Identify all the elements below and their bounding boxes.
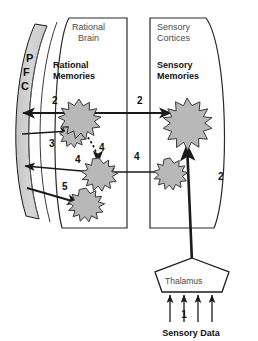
sensory-data-label: Sensory Data [162, 328, 221, 338]
step-label-1-sensory-data: 1 [181, 309, 187, 320]
sensory-memories-label-line1: Sensory [157, 60, 193, 70]
step-label-2-thalamus-to-sensory: 2 [218, 171, 224, 182]
diagram-canvas: P F C Rational Brain Rational Memories S… [0, 0, 258, 341]
step-label-4-mid-right: 4 [134, 151, 140, 162]
rational-memories-label-line2: Memories [53, 71, 95, 81]
step-label-3-small-to-pfc: 3 [49, 138, 55, 149]
step-label-5-pfc-to-star: 5 [62, 181, 68, 192]
step-label-2-rational-to-pfc: 2 [52, 95, 58, 106]
step-label-4-mid-left: 4 [75, 154, 81, 165]
rational-brain-title-line1: Rational [72, 22, 105, 32]
step-label-2-rational-to-sensory: 2 [137, 95, 143, 106]
sensory-cortices-title-line1: Sensory [157, 22, 191, 32]
step-label-4-dotted: 4 [99, 142, 105, 153]
thalamus-label: Thalamus [165, 276, 202, 286]
rational-memories-label-line1: Rational [53, 60, 89, 70]
brain-memory-diagram: P F C Rational Brain Rational Memories S… [0, 0, 258, 341]
sensory-cortices-title-line2: Cortices [157, 33, 191, 43]
pfc-letter-p: P [26, 52, 33, 64]
pfc-letter-f: F [23, 66, 30, 78]
rational-brain-title-line2: Brain [78, 33, 99, 43]
pfc-letter-c: C [21, 80, 29, 92]
sensory-memories-label-line2: Memories [157, 71, 199, 81]
